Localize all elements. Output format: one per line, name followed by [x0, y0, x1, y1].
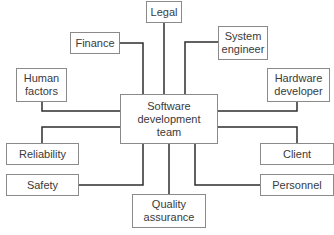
connector-system-engineer [185, 42, 218, 94]
node-safety: Safety [6, 174, 79, 196]
node-legal: Legal [146, 1, 182, 23]
node-hardware-developer: Hardware developer [267, 68, 330, 102]
connector-reliability [42, 127, 120, 143]
connector-safety [79, 144, 143, 185]
connector-personnel [195, 144, 260, 185]
node-finance: Finance [70, 32, 120, 54]
node-human-factors: Human factors [16, 68, 67, 102]
node-quality-assurance: Quality assurance [132, 194, 206, 228]
node-system-engineer: System engineer [218, 26, 268, 60]
connector-hardware-developer [218, 102, 297, 111]
center-node: Software development team [120, 94, 218, 144]
node-client: Client [260, 143, 334, 165]
connector-human-factors [42, 102, 120, 111]
node-personnel: Personnel [260, 174, 334, 196]
connector-client [218, 127, 297, 143]
node-reliability: Reliability [6, 143, 79, 165]
connector-finance [120, 43, 143, 94]
